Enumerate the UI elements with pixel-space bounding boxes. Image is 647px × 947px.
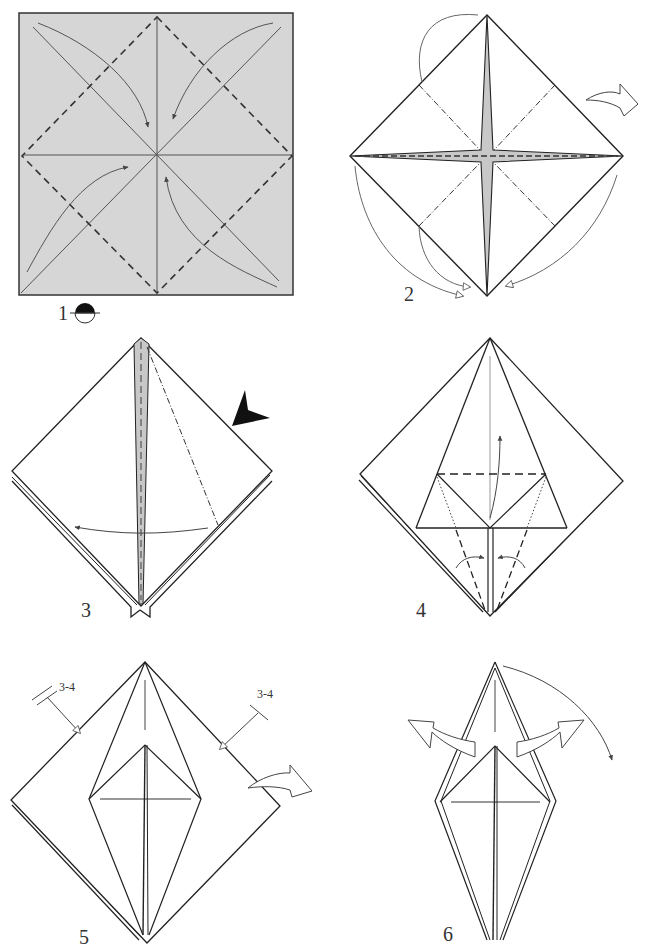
step-number-5: 5 xyxy=(79,927,89,947)
step-2-figure xyxy=(350,14,623,296)
origami-diagram: 1 2 3 4 5 6 3-4 3-4 xyxy=(0,0,647,947)
pull-out-arrow-left-icon xyxy=(408,720,475,757)
step-5-figure xyxy=(11,662,280,943)
turn-over-icon xyxy=(70,303,100,323)
pull-out-arrow-right-icon xyxy=(517,720,584,757)
turn-over-arrow-icon xyxy=(586,84,638,116)
step-4-figure xyxy=(359,338,623,616)
push-arrow-icon xyxy=(232,390,270,426)
step-number-2: 2 xyxy=(404,284,414,304)
diagram-canvas xyxy=(0,0,647,947)
repeat-steps-label-right: 3-4 xyxy=(257,688,273,700)
step-number-3: 3 xyxy=(81,600,91,620)
step-number-1: 1 xyxy=(58,303,68,323)
step-1-figure xyxy=(19,13,293,295)
repeat-steps-label-left: 3-4 xyxy=(59,681,75,693)
step-number-6: 6 xyxy=(443,924,453,944)
step-6-figure xyxy=(435,662,612,940)
step-number-4: 4 xyxy=(416,600,426,620)
step-3-figure xyxy=(12,338,272,617)
